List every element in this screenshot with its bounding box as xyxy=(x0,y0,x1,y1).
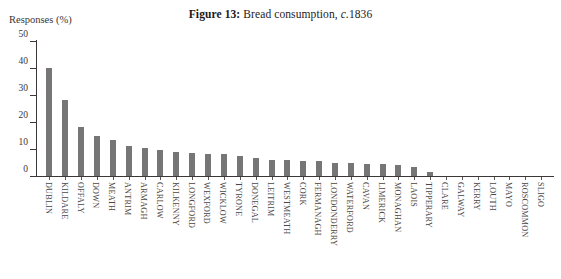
x-axis-tick xyxy=(509,177,510,180)
x-axis-tick xyxy=(525,177,526,180)
bar xyxy=(427,172,433,176)
x-axis-tick-label: KILDARE xyxy=(60,182,69,219)
bar xyxy=(110,140,116,176)
x-axis-tick-label: KERRY xyxy=(472,182,481,210)
x-axis-tick-label: WATERFORD xyxy=(345,182,354,233)
x-axis-tick xyxy=(192,177,193,180)
x-axis-tick xyxy=(160,177,161,180)
bar xyxy=(411,167,417,176)
x-axis-tick-label: FERMANAGH xyxy=(313,182,322,236)
bar xyxy=(189,153,195,176)
y-axis-tick-label: 50 xyxy=(2,29,28,39)
x-axis-tick-label: LONDONDERRY xyxy=(329,182,338,246)
x-axis-tick xyxy=(113,177,114,180)
x-axis-tick-label: KILKENNY xyxy=(171,182,180,226)
bar xyxy=(253,158,259,176)
x-axis-tick-label: GALWAY xyxy=(456,182,465,217)
x-axis-tick-label: DONEGAL xyxy=(250,182,259,223)
x-axis-tick xyxy=(319,177,320,180)
x-axis-tick-label: LOUTH xyxy=(488,182,497,211)
bar xyxy=(380,164,386,176)
bar xyxy=(126,146,132,176)
bar xyxy=(348,163,354,177)
plot-area xyxy=(36,41,553,176)
x-axis-tick-label: ARMAGH xyxy=(139,182,148,220)
x-axis-tick xyxy=(446,177,447,180)
x-axis-tick-label: WEXFORD xyxy=(202,182,211,224)
y-axis-tick-label: 40 xyxy=(2,56,28,66)
x-axis-tick xyxy=(462,177,463,180)
bar xyxy=(94,136,100,177)
bar xyxy=(205,154,211,176)
bar xyxy=(395,165,401,176)
x-axis-tick-label: ANTRIM xyxy=(123,182,132,216)
bar xyxy=(62,100,68,176)
figure-page: Figure 13: Bread consumption, c.1836 Res… xyxy=(0,0,561,279)
x-axis-tick xyxy=(81,177,82,180)
x-axis-tick-label: LAOIS xyxy=(409,182,418,207)
bar xyxy=(300,161,306,176)
x-axis-tick xyxy=(367,177,368,180)
x-axis-tick xyxy=(351,177,352,180)
y-axis-tick-label: 0 xyxy=(2,164,28,174)
y-axis-tick xyxy=(30,176,36,177)
x-axis-tick xyxy=(97,177,98,180)
y-axis-tick-label: 10 xyxy=(2,137,28,147)
x-axis-tick xyxy=(430,177,431,180)
x-axis-tick xyxy=(240,177,241,180)
x-axis-tick xyxy=(145,177,146,180)
x-axis-tick-label: CLARE xyxy=(440,182,449,210)
x-axis-tick-label: SLIGO xyxy=(536,182,545,207)
bar xyxy=(157,150,163,176)
x-axis-tick xyxy=(224,177,225,180)
bar xyxy=(237,156,243,176)
figure-caption-year: 1836 xyxy=(349,8,372,20)
x-axis-tick-label: CARLOW xyxy=(155,182,164,219)
bar xyxy=(173,152,179,176)
x-axis-tick-label: DUBLIN xyxy=(44,182,53,214)
x-axis-tick xyxy=(65,177,66,180)
x-axis-tick-label: OFFALY xyxy=(76,182,85,214)
x-axis-tick xyxy=(49,177,50,180)
x-axis-tick-label: TYRONE xyxy=(234,182,243,216)
x-axis-tick xyxy=(287,177,288,180)
x-axis-tick-label: WESTMEATH xyxy=(282,182,291,234)
x-axis-tick-label: DOWN xyxy=(91,182,100,208)
x-axis-tick xyxy=(398,177,399,180)
bar xyxy=(284,160,290,176)
x-axis-tick xyxy=(335,177,336,180)
figure-number: Figure 13: xyxy=(189,8,241,20)
bar xyxy=(332,163,338,177)
x-axis-tick-label: MAYO xyxy=(504,182,513,207)
bar xyxy=(78,127,84,176)
x-axis-tick xyxy=(478,177,479,180)
x-axis-tick-label: LEITRIM xyxy=(266,182,275,217)
bar xyxy=(364,164,370,176)
x-axis-tick-label: TIPPERARY xyxy=(424,182,433,228)
bar xyxy=(142,148,148,176)
x-axis-tick xyxy=(208,177,209,180)
x-axis-tick xyxy=(272,177,273,180)
bar xyxy=(316,161,322,176)
bar xyxy=(269,160,275,176)
x-axis-tick-label: ROSCOMMON xyxy=(520,182,529,238)
x-axis-tick xyxy=(383,177,384,180)
x-axis-tick-label: MONAGHAN xyxy=(393,182,402,232)
x-axis-tick xyxy=(414,177,415,180)
bar xyxy=(221,154,227,176)
x-axis-tick-label: WICKLOW xyxy=(218,182,227,224)
figure-caption-text: Bread consumption, xyxy=(243,8,340,20)
x-axis-tick xyxy=(541,177,542,180)
x-axis-tick-label: LIMERICK xyxy=(377,182,386,223)
y-axis-tick-label: 20 xyxy=(2,110,28,120)
y-axis-tick-label: 30 xyxy=(2,83,28,93)
x-axis-tick-label: MEATH xyxy=(107,182,116,211)
y-axis-title: Responses (%) xyxy=(9,14,72,25)
x-axis-tick xyxy=(256,177,257,180)
bar xyxy=(46,68,52,176)
figure-caption-italic: c. xyxy=(341,8,349,20)
figure-title: Figure 13: Bread consumption, c.1836 xyxy=(0,8,561,20)
x-axis-tick-label: CORK xyxy=(298,182,307,206)
x-axis-tick xyxy=(494,177,495,180)
x-axis-tick xyxy=(176,177,177,180)
